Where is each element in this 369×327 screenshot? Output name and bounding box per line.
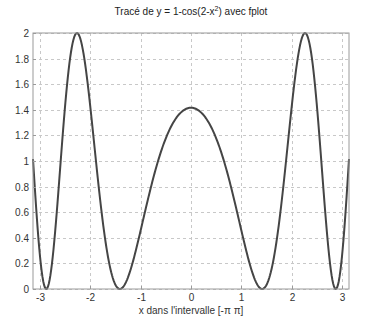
y-tick-label: 0.2	[15, 258, 29, 269]
x-tick-label: -2	[86, 292, 95, 303]
x-tick-label: -1	[137, 292, 146, 303]
y-tick-label: 1.8	[15, 54, 29, 65]
y-tick-label: 1.2	[15, 130, 29, 141]
y-tick-label: 0.4	[15, 233, 29, 244]
y-tick-label: 0.8	[15, 182, 29, 193]
x-tick-label: 0	[189, 292, 195, 303]
chart: Tracé de y = 1-cos(2-x2) avec fplot -3-2…	[0, 0, 369, 327]
chart-title: Tracé de y = 1-cos(2-x2) avec fplot	[115, 5, 268, 17]
x-tick-label: 3	[340, 292, 346, 303]
x-tick-label: 1	[239, 292, 245, 303]
y-tick-label: 1.4	[15, 105, 29, 116]
y-tick-label: 0.6	[15, 207, 29, 218]
x-tick-label: -3	[36, 292, 45, 303]
y-tick-label: 1	[23, 156, 29, 167]
y-tick-label: 2	[23, 28, 29, 39]
x-axis-label: x dans l'intervalle [-π π]	[139, 305, 244, 316]
y-tick-label: 1.6	[15, 79, 29, 90]
y-tick-label: 0	[23, 284, 29, 295]
x-tick-label: 2	[290, 292, 296, 303]
